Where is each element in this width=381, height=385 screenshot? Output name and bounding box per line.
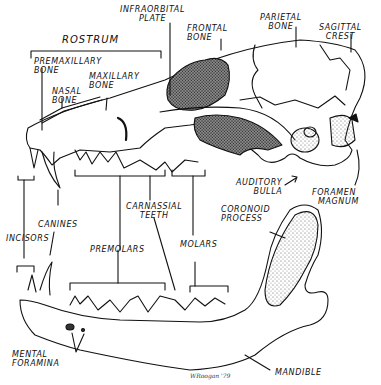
label-frontal-bone: FRONTAL BONE bbox=[187, 24, 228, 42]
label-coronoid-process: CORONOID PROCESS bbox=[221, 205, 270, 223]
label-carnassial-teeth: CARNASSIAL TEETH bbox=[126, 202, 182, 220]
label-infraorbital-plate: INFRAORBITAL PLATE bbox=[120, 5, 185, 23]
label-mental-foramina: MENTAL FORAMINA bbox=[12, 350, 59, 368]
label-incisors: INCISORS bbox=[6, 234, 49, 243]
artist-signature: WRoogan '79 bbox=[190, 372, 230, 379]
label-premolars: PREMOLARS bbox=[90, 245, 145, 254]
label-foramen-magnum: FORAMEN MAGNUM bbox=[312, 188, 359, 206]
label-canines: CANINES bbox=[38, 220, 78, 229]
label-molars: MOLARS bbox=[180, 240, 217, 249]
skull-diagram: ROSTRUM INFRAORBITAL PLATE FRONTAL BONE … bbox=[0, 0, 381, 385]
label-parietal-bone: PARIETAL BONE bbox=[260, 13, 302, 31]
label-auditory-bulla: AUDITORY BULLA bbox=[236, 178, 282, 196]
label-mandible: MANDIBLE bbox=[275, 368, 322, 377]
label-nasal-bone: NASAL BONE bbox=[52, 87, 81, 105]
label-sagittal-crest: SAGITTAL CREST bbox=[319, 23, 362, 41]
label-rostrum: ROSTRUM bbox=[62, 35, 119, 44]
label-maxillary-bone: MAXILLARY BONE bbox=[89, 72, 139, 90]
